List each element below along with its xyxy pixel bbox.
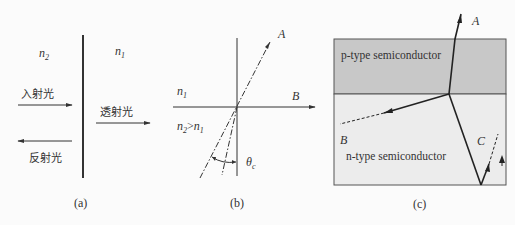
label-a: A [277,27,286,41]
angle-arrow-left [212,157,216,161]
caption-b: (b) [230,196,244,210]
label-n2-gt-n1: n2>n1 [177,119,204,135]
caption-c: (c) [413,197,426,211]
figure-canvas: n2 n1 入射光 透射光 反射光 (a) A B n1 n2>n1 θc (b… [0,0,515,225]
label-n1-upper: n1 [177,84,187,100]
label-a: A [471,14,480,28]
incident-light-label: 入射光 [21,87,54,101]
transmitted-light-label: 透射光 [100,105,133,119]
panel-a: n2 n1 入射光 透射光 反射光 (a) [18,35,150,210]
critical-ray-line [222,107,237,175]
label-b: B [340,133,348,147]
label-n1: n1 [115,44,125,60]
p-type-layer [334,39,506,94]
ray-a-arrowhead [265,42,270,49]
caption-a: (a) [74,196,87,210]
label-c: C [477,134,486,148]
ray-a-line [200,42,270,178]
p-type-label: p-type semiconductor [341,49,441,62]
reflected-light-label: 反射光 [29,151,62,165]
panel-c: p-type semiconductor n-type semiconducto… [334,14,506,211]
angle-arrow-right [232,160,236,164]
panel-b: A B n1 n2>n1 θc (b) [173,27,315,210]
label-n2: n2 [39,46,49,62]
label-theta-c: θc [246,155,256,171]
label-b: B [292,89,300,103]
n-type-label: n-type semiconductor [346,150,446,163]
